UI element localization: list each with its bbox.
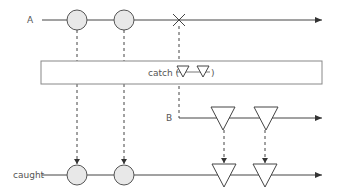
operator-box: catch ( ) [41,61,322,84]
stream-caught: caught [13,164,322,187]
stream-a: A [27,10,322,30]
stream-a-label: A [27,15,34,25]
stream-b-label: B [166,113,172,123]
marble-circle-icon [114,165,134,185]
marble-diagram: A catch ( ) B caught [0,0,340,195]
marble-circle-icon [67,10,87,30]
connectors [77,26,265,164]
operator-label-suffix: ) [211,68,215,78]
stream-b: B [166,107,322,130]
marble-circle-icon [114,10,134,30]
operator-label-prefix: catch ( [148,68,179,78]
marble-circle-icon [67,165,87,185]
stream-caught-label: caught [13,170,45,180]
